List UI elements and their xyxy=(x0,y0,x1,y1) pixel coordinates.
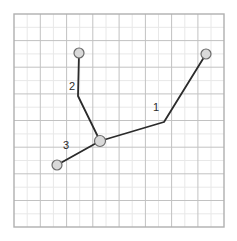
line-diagram-figure: 1 2 3 xyxy=(0,0,237,241)
endpoint-node-series-2[interactable] xyxy=(74,48,84,58)
junction-node[interactable] xyxy=(95,136,106,147)
series-label-3: 3 xyxy=(63,139,69,151)
series-label-1: 1 xyxy=(153,101,159,113)
endpoint-node-series-3[interactable] xyxy=(52,160,62,170)
endpoint-node-series-1[interactable] xyxy=(201,49,211,59)
diagram-canvas: 1 2 3 xyxy=(0,0,237,241)
series-line-2 xyxy=(78,53,100,141)
series-label-2: 2 xyxy=(69,80,75,92)
series-nodes xyxy=(52,48,211,170)
